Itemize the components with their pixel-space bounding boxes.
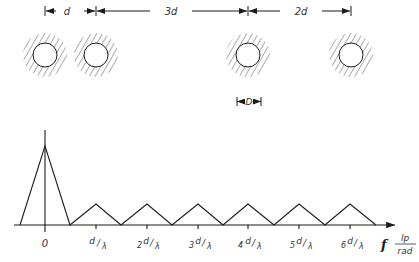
svg-text:2: 2 (137, 241, 142, 250)
svg-text:3: 3 (189, 241, 194, 250)
spacing-label-3d: 3d (165, 6, 178, 17)
svg-text:λ: λ (256, 242, 262, 251)
aperture-label-D: D (246, 97, 253, 107)
svg-text:d: d (89, 236, 95, 246)
svg-text:d: d (143, 236, 149, 246)
svg-text:/: / (353, 238, 358, 248)
svg-text:/: / (149, 238, 154, 248)
svg-text:5: 5 (290, 241, 295, 250)
svg-text:d: d (195, 236, 201, 246)
tick-label-3: 3 d / λ (189, 236, 212, 251)
tick-label-5: 5 d / λ (290, 236, 313, 251)
svg-text:λ: λ (101, 242, 107, 251)
tick-label-2: 2 d / λ (137, 236, 160, 251)
svg-text:λ: λ (358, 242, 364, 251)
svg-text:λ: λ (206, 242, 212, 251)
svg-text:6: 6 (341, 241, 346, 250)
mtf-curve (20, 146, 376, 225)
svg-text:4: 4 (238, 241, 243, 250)
svg-text:d: d (347, 236, 353, 246)
aperture-2 (74, 33, 118, 77)
tick-label-6: 6 d / λ (341, 236, 364, 251)
svg-text:λ: λ (154, 242, 160, 251)
svg-text:d: d (245, 236, 251, 246)
spacing-label-2d: 2d (295, 6, 308, 17)
svg-text:d: d (296, 236, 302, 246)
svg-text:/: / (251, 238, 256, 248)
tick-label-4: 4 d / λ (238, 236, 262, 251)
spacing-label-d: d (64, 6, 71, 17)
tick-label-1: d / λ (89, 236, 107, 251)
svg-text:/: / (201, 238, 206, 248)
tick-label-0: 0 (42, 238, 48, 249)
svg-text:0: 0 (42, 238, 48, 249)
mtf-diagram: d 3d 2d D 0 d (0, 0, 419, 262)
axis-variable-f: f (380, 237, 389, 252)
svg-text:/: / (96, 238, 101, 248)
svg-text:rad: rad (398, 246, 413, 256)
svg-text:lp: lp (401, 233, 410, 243)
svg-text:λ: λ (307, 242, 313, 251)
aperture-1 (23, 33, 67, 77)
axis-unit: lp rad (395, 233, 416, 256)
frequency-axis (14, 130, 395, 232)
aperture-3 (226, 33, 270, 77)
svg-text:/: / (302, 238, 307, 248)
aperture-4 (329, 33, 373, 77)
